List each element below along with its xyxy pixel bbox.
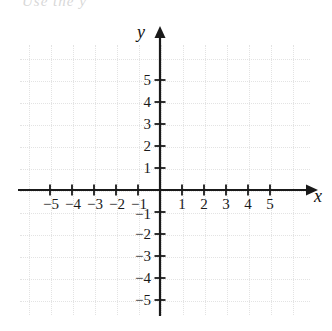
x-tick-label: −5	[43, 196, 59, 213]
y-tick-label: −4	[135, 270, 151, 287]
y-axis-arrowhead	[155, 26, 166, 38]
x-axis-label: x	[314, 186, 322, 207]
y-tick-label: −2	[135, 226, 151, 243]
axes-layer	[0, 0, 332, 331]
y-axis-label: y	[137, 22, 145, 43]
coordinate-grid-figure: Use the y −5−4−3−2−112345 54321−1−2−3−4−…	[0, 0, 332, 331]
y-tick-label: 3	[144, 116, 152, 133]
y-tick-label: −3	[135, 248, 151, 265]
x-tick-label: 3	[222, 196, 230, 213]
y-tick-label: 1	[144, 160, 152, 177]
y-tick-label: 4	[144, 94, 152, 111]
y-tick-label: −1	[135, 206, 151, 223]
y-tick-label: 2	[144, 138, 152, 155]
y-tick-label: 5	[144, 72, 152, 89]
y-tick-label: −5	[135, 292, 151, 309]
x-tick-label: 5	[266, 196, 274, 213]
x-tick-label: −2	[109, 196, 125, 213]
x-tick-label: −3	[87, 196, 103, 213]
x-tick-label: 2	[200, 196, 208, 213]
x-tick-label: 4	[244, 196, 252, 213]
x-tick-label: 1	[178, 196, 186, 213]
x-tick-label: −4	[65, 196, 81, 213]
